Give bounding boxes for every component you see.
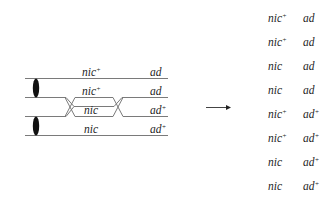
chromatid-2-gene1: nic+ (82, 83, 101, 97)
product-gene1: nic (268, 58, 283, 72)
product-gene1: nic+ (268, 130, 287, 144)
product-gene1: nic (268, 178, 283, 192)
chromatid-4-gene1: nic (84, 121, 99, 135)
product-row: nic+ ad+ (268, 106, 328, 120)
chromatid-4-gene2: ad+ (150, 121, 166, 135)
product-gene2: ad (303, 58, 315, 72)
product-gene2: ad+ (303, 154, 319, 168)
product-gene2: ad (303, 10, 315, 24)
chromatid-3-gene2: ad+ (150, 102, 166, 116)
product-row: nic ad+ (268, 178, 328, 192)
product-row: nic+ ad+ (268, 130, 328, 144)
diagram-canvas: nic+ ad nic+ ad nic ad+ nic ad+ nic+ ad … (0, 0, 335, 202)
product-gene2: ad+ (303, 106, 319, 120)
chromatid-line-3a (25, 107, 74, 117)
centromere-icon (33, 79, 39, 98)
centromere-icon (33, 117, 39, 136)
chromatid-1-gene2: ad (150, 64, 162, 78)
product-row: nic+ ad (268, 34, 328, 48)
product-gene1: nic+ (268, 10, 287, 24)
chromatid-drawing (0, 0, 335, 202)
product-row: nic ad+ (268, 154, 328, 168)
product-row: nic+ ad (268, 10, 328, 24)
product-row: nic ad (268, 82, 328, 96)
chromatid-2-gene2: ad (150, 83, 162, 97)
chromatid-3-gene1: nic (84, 102, 99, 116)
product-gene2: ad (303, 82, 315, 96)
product-row: nic ad (268, 58, 328, 72)
product-gene1: nic+ (268, 34, 287, 48)
arrow-head-icon (226, 105, 231, 110)
product-gene1: nic (268, 82, 283, 96)
product-gene2: ad+ (303, 130, 319, 144)
chromatid-1-gene1: nic+ (82, 64, 101, 78)
product-gene2: ad+ (303, 178, 319, 192)
product-gene2: ad (303, 34, 315, 48)
product-gene1: nic+ (268, 106, 287, 120)
product-gene1: nic (268, 154, 283, 168)
